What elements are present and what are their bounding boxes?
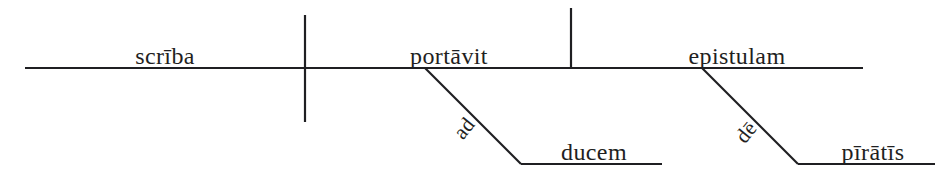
word-prep-object-ducem: ducem xyxy=(561,140,627,164)
diagonal-pp-ad xyxy=(425,68,521,164)
word-object-epistulam: epistulam xyxy=(689,44,786,68)
sentence-diagram: scrība portāvit epistulam ad ducem dē pī… xyxy=(0,0,945,180)
diagonal-pp-de xyxy=(702,68,798,164)
diagram-lines xyxy=(0,0,945,180)
word-verb-portavit: portāvit xyxy=(410,44,488,68)
word-subject-scriba: scrība xyxy=(135,44,195,68)
word-prep-object-piratis: pīrātīs xyxy=(842,140,905,164)
